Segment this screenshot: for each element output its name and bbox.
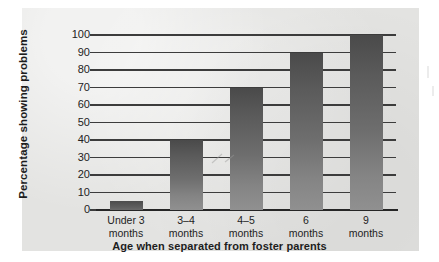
x-axis-tick-label: 9months <box>324 214 408 239</box>
chart-figure: Percentage showing problems 010203040506… <box>0 0 439 262</box>
y-axis-tick-label: 10 <box>46 187 90 198</box>
y-axis-title: Percentage showing problems <box>17 29 29 199</box>
y-axis-tick-mark <box>90 139 96 141</box>
y-axis-tick-label: 80 <box>46 64 90 75</box>
y-axis-tick-mark <box>90 87 96 89</box>
y-axis-tick-mark <box>90 192 96 194</box>
y-axis-tick-label: 70 <box>46 82 90 93</box>
y-axis-tick-mark <box>90 209 96 211</box>
y-axis-tick-mark <box>90 69 96 71</box>
x-axis-tick-label-line: months <box>324 227 408 240</box>
y-axis-tick-label: 100 <box>46 29 90 40</box>
y-axis-tick-label: 40 <box>46 134 90 145</box>
y-axis-tick-mark <box>90 157 96 159</box>
plot-area: 0102030405060708090100 <box>96 35 396 210</box>
y-axis-tick-mark <box>90 174 96 176</box>
y-axis-tick-label: 60 <box>46 99 90 110</box>
y-axis-tick-label: 20 <box>46 169 90 180</box>
y-axis-tick-label: 30 <box>46 152 90 163</box>
bar <box>230 88 263 211</box>
bar <box>110 201 143 210</box>
scan-artifact-right-icon <box>424 62 438 102</box>
y-axis-tick-mark <box>90 122 96 124</box>
y-axis-tick-mark <box>90 52 96 54</box>
y-axis-tick-mark <box>90 104 96 106</box>
bar <box>290 53 323 211</box>
x-axis-tick-label-line: 9 <box>324 214 408 227</box>
bar <box>350 35 383 210</box>
y-axis-tick-label: 90 <box>46 47 90 58</box>
y-axis-tick-label: 50 <box>46 117 90 128</box>
bar <box>170 140 203 210</box>
y-axis-tick-mark <box>90 34 96 36</box>
x-axis-title: Age when separated from foster parents <box>0 240 439 252</box>
